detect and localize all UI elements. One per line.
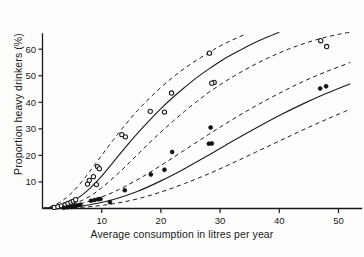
data-point-filled — [78, 203, 82, 207]
data-point-open — [123, 135, 127, 139]
data-point-open — [207, 51, 211, 55]
data-point-filled — [210, 141, 214, 145]
data-point-filled — [324, 84, 328, 88]
data-point-filled — [209, 126, 213, 130]
data-point-open — [94, 182, 98, 186]
data-point-filled — [170, 150, 174, 154]
x-tick-label: 20 — [156, 215, 167, 226]
scatter-plot: 1020304050601020304050 — [0, 0, 364, 257]
data-point-filled — [108, 200, 112, 204]
lower-fit-lower-ci — [43, 109, 351, 208]
data-point-filled — [162, 168, 166, 172]
data-point-open — [319, 39, 323, 43]
y-tick-label: 20 — [25, 150, 36, 161]
x-tick-label: 30 — [215, 215, 226, 226]
data-point-filled — [149, 173, 153, 177]
upper-fit-solid — [43, 32, 280, 208]
data-point-open — [162, 110, 166, 114]
lower-fit-upper-ci — [43, 62, 351, 208]
data-point-open — [169, 91, 173, 95]
data-point-open — [74, 198, 78, 202]
data-point-open — [97, 167, 101, 171]
data-point-open — [210, 81, 214, 85]
data-point-open — [91, 174, 95, 178]
y-tick-label: 60 — [25, 44, 36, 55]
y-tick-label: 10 — [25, 176, 36, 187]
x-axis-title: Average consumption in litres per year — [0, 228, 364, 240]
x-tick-label: 50 — [333, 215, 344, 226]
tick-labels: 1020304050601020304050 — [25, 44, 343, 226]
figure-container: 1020304050601020304050 Proportion heavy … — [0, 0, 364, 257]
x-tick-label: 10 — [96, 215, 107, 226]
data-point-filled — [123, 188, 127, 192]
data-point-filled — [99, 197, 103, 201]
data-point-open — [325, 44, 329, 48]
y-axis-title: Proportion heavy drinkers (%) — [12, 9, 24, 199]
x-tick-label: 40 — [274, 215, 285, 226]
y-tick-label: 30 — [25, 123, 36, 134]
y-tick-label: 40 — [25, 97, 36, 108]
upper-fit-upper-ci — [43, 35, 244, 209]
data-point-open — [87, 178, 91, 182]
y-tick-label: 50 — [25, 70, 36, 81]
figure-caption — [4, 249, 360, 257]
data-point-filled — [318, 86, 322, 90]
data-point-open — [148, 109, 152, 113]
